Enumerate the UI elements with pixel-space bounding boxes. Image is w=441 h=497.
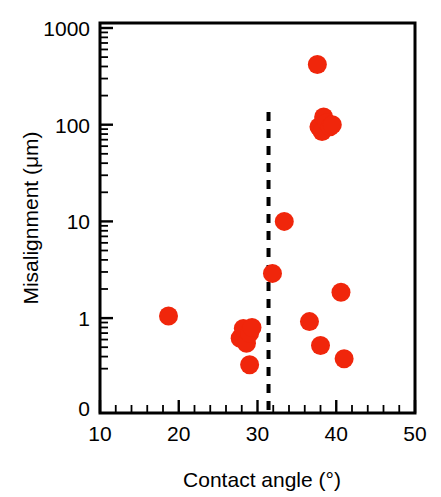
y-axis-title: Misalignment (μm): [19, 131, 42, 304]
y-axis-origin-label: 0: [78, 397, 90, 420]
data-point: [335, 349, 354, 368]
x-axis-title: Contact angle (°): [183, 468, 341, 491]
x-tick-label: 10: [88, 422, 111, 445]
data-point: [159, 307, 178, 326]
data-point: [300, 312, 319, 331]
y-tick-label: 10: [67, 210, 90, 233]
x-tick-label: 40: [325, 422, 348, 445]
data-point: [308, 55, 327, 74]
plot-frame: [100, 23, 415, 413]
data-point: [242, 318, 261, 337]
y-axis-ticks: [100, 28, 113, 369]
data-point: [275, 212, 294, 231]
data-point: [240, 355, 259, 374]
y-tick-label: 1: [78, 307, 90, 330]
x-tick-label: 50: [403, 422, 426, 445]
data-point: [263, 264, 282, 283]
y-tick-label: 1000: [43, 17, 90, 40]
y-axis-tick-labels: 11010010000: [43, 17, 90, 420]
x-axis-ticks: [100, 400, 415, 413]
chart-canvas: 11010010000 1020304050 Misalignment (μm)…: [0, 0, 441, 497]
x-tick-label: 20: [167, 422, 190, 445]
y-tick-label: 100: [55, 114, 90, 137]
x-tick-label: 30: [246, 422, 269, 445]
scatter-chart-figure: 11010010000 1020304050 Misalignment (μm)…: [0, 0, 441, 497]
data-point: [323, 115, 342, 134]
data-point-layer: [159, 55, 354, 374]
data-point: [311, 336, 330, 355]
data-point: [331, 283, 350, 302]
x-axis-tick-labels: 1020304050: [88, 422, 426, 445]
